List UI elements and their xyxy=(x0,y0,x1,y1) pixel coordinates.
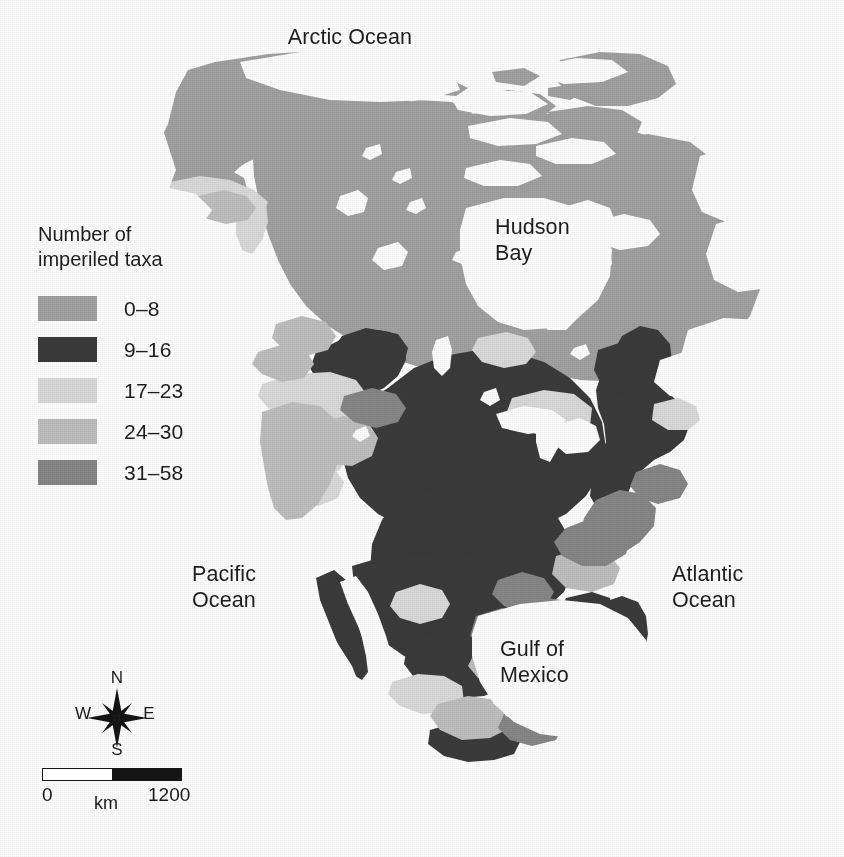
legend-row-31-58: 31–58 xyxy=(38,452,238,493)
legend-swatch-0-8 xyxy=(38,296,97,321)
map-scalebar: 0 km 1200 xyxy=(42,768,222,809)
water-label-gulf-of-mexico: Gulf of Mexico xyxy=(500,636,630,688)
compass-label-north: N xyxy=(109,668,125,688)
imperiled-taxa-map-figure: Arctic Ocean Hudson Bay Pacific Ocean At… xyxy=(0,0,844,857)
legend-label-17-23: 17–23 xyxy=(124,379,183,403)
legend-row-24-30: 24–30 xyxy=(38,411,238,452)
scalebar-label-max: 1200 xyxy=(148,784,190,806)
scalebar-segment-dark xyxy=(112,769,181,780)
region-arctic-island-f xyxy=(492,68,540,86)
region-bc-24-30 xyxy=(252,344,314,382)
legend-row-9-16: 9–16 xyxy=(38,329,238,370)
water-label-atlantic-ocean: Atlantic Ocean xyxy=(672,561,802,613)
legend-title: Number of imperiled taxa xyxy=(38,222,238,272)
legend-row-0-8: 0–8 xyxy=(38,288,238,329)
legend-swatch-17-23 xyxy=(38,378,97,403)
scalebar-labels: 0 km 1200 xyxy=(42,781,222,809)
scalebar-track xyxy=(42,768,182,781)
legend-label-31-58: 31–58 xyxy=(124,461,183,485)
compass-label-south: S xyxy=(109,740,125,760)
legend-row-17-23: 17–23 xyxy=(38,370,238,411)
scalebar-segment-light xyxy=(43,769,112,780)
scalebar-label-min: 0 xyxy=(42,784,53,806)
legend-swatch-24-30 xyxy=(38,419,97,444)
water-davis-strait xyxy=(692,146,784,222)
legend-label-24-30: 24–30 xyxy=(124,420,183,444)
water-label-pacific-ocean: Pacific Ocean xyxy=(192,561,312,613)
compass-rose: N S E W xyxy=(57,672,177,762)
water-baffin-bay xyxy=(682,50,792,152)
compass-label-east: E xyxy=(141,704,157,724)
scalebar-label-unit: km xyxy=(94,793,118,814)
compass-label-west: W xyxy=(75,704,91,724)
legend-swatch-31-58 xyxy=(38,460,97,485)
legend-label-9-16: 9–16 xyxy=(124,338,172,362)
water-label-hudson-bay: Hudson Bay xyxy=(495,214,615,266)
legend-label-0-8: 0–8 xyxy=(124,297,160,321)
legend-swatch-9-16 xyxy=(38,337,97,362)
map-legend: Number of imperiled taxa 0–8 9–16 17–23 … xyxy=(38,222,238,493)
water-label-arctic-ocean: Arctic Ocean xyxy=(255,24,445,50)
